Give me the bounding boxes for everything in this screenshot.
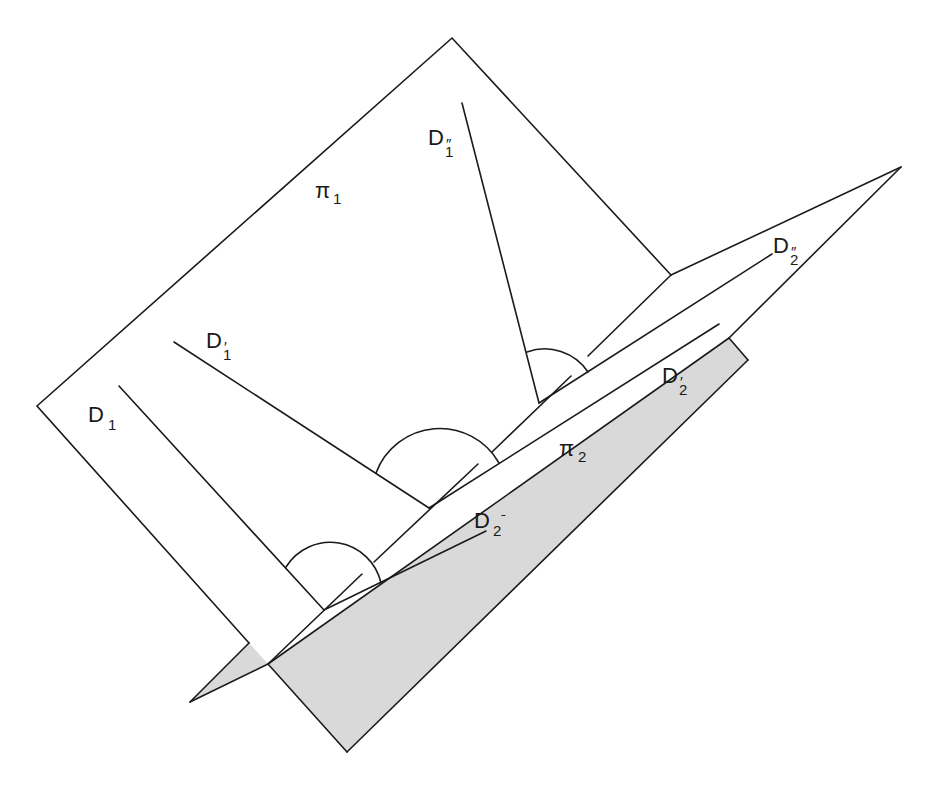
- svg-text:2: 2: [790, 251, 798, 268]
- plane-pi2-right-edge: [729, 167, 901, 338]
- svg-text:ˉ: ˉ: [501, 511, 506, 528]
- svg-text:D: D: [474, 508, 490, 533]
- hinge-line-top: [588, 275, 671, 356]
- label-D1-double-prime: D ″ 1: [428, 125, 453, 160]
- plane-pi1-outline: [37, 38, 671, 643]
- angle-arc-D1-D2: [286, 542, 381, 583]
- svg-text:1: 1: [445, 143, 453, 160]
- svg-text:π: π: [315, 178, 330, 203]
- line-D1-double-prime: [462, 103, 539, 403]
- label-D1-prime: D ′ 1: [206, 328, 231, 363]
- svg-text:D: D: [428, 125, 444, 150]
- label-D1: D 1: [88, 402, 116, 433]
- angle-arc-D1prime-D2prime: [376, 428, 499, 473]
- angle-arc-D1doubleprime-D2doubleprime: [527, 349, 588, 372]
- svg-text:2: 2: [679, 381, 687, 398]
- line-D1-prime: [174, 342, 429, 508]
- plane-pi2-front-edge: [268, 338, 729, 664]
- svg-text:2: 2: [578, 448, 586, 465]
- svg-text:1: 1: [223, 346, 231, 363]
- svg-text:π: π: [559, 436, 574, 461]
- pi2-shaded-underside: [268, 338, 748, 752]
- svg-text:1: 1: [333, 190, 341, 207]
- pi2-shaded-left-tip: [190, 643, 268, 702]
- svg-text:D: D: [88, 402, 104, 427]
- svg-text:1: 1: [108, 416, 116, 433]
- label-pi2: π 2: [559, 436, 586, 465]
- svg-text:D: D: [662, 363, 678, 388]
- label-pi1: π 1: [315, 178, 341, 207]
- shade-edge-bottom: [347, 360, 748, 752]
- dihedral-angle-diagram: π 1 π 2 D 1 D ′ 1 D ″ 1 D 2 ˉ D ′ 2 D ″ …: [0, 0, 940, 786]
- svg-text:D: D: [773, 233, 789, 258]
- svg-text:D: D: [206, 328, 222, 353]
- label-D2-double-prime: D ″ 2: [773, 233, 798, 268]
- line-D2-double-prime: [539, 254, 772, 403]
- plane-pi2-top-edge-right: [671, 167, 901, 275]
